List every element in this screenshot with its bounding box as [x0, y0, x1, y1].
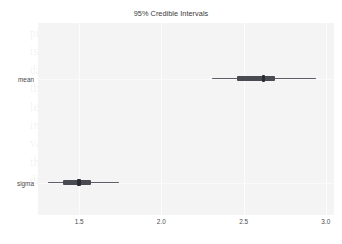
y-tick-label-mean: mean	[0, 76, 34, 83]
plot-panel	[38, 23, 334, 215]
interval-row-sigma	[38, 176, 334, 190]
x-axis: 1.52.02.53.0	[38, 218, 334, 232]
y-axis: meansigma	[0, 23, 34, 215]
credible-interval-inner-mean	[237, 76, 275, 80]
chart-title: 95% Credible Intervals	[0, 9, 342, 18]
chart-figure: problem is for a different data, no info…	[0, 0, 342, 244]
point-estimate-mean	[262, 75, 265, 82]
interval-row-mean	[38, 72, 334, 86]
y-tick-label-sigma: sigma	[0, 180, 34, 187]
x-tick-label-2.5: 2.5	[224, 218, 264, 225]
x-tick-label-2.0: 2.0	[141, 218, 181, 225]
point-estimate-sigma	[77, 179, 80, 186]
x-tick-label-3.0: 3.0	[306, 218, 342, 225]
x-tick-label-1.5: 1.5	[59, 218, 99, 225]
